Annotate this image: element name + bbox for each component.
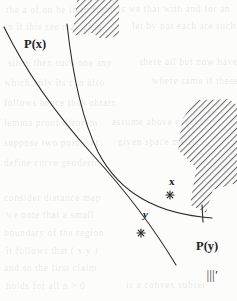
point-y-marker	[137, 229, 145, 237]
label-p-of-x: P(x)	[24, 38, 46, 51]
label-point-y: y	[143, 209, 148, 220]
label-gamma-prime: |||'	[206, 269, 216, 281]
upper-triangle-region	[72, 0, 119, 39]
label-point-x: x	[169, 176, 175, 187]
curve-p-of-x	[4, 27, 176, 265]
point-x-marker	[166, 191, 174, 199]
geometric-figure: the a of on be in to from is we that wit…	[0, 0, 237, 301]
label-p-of-y: P(y)	[196, 240, 218, 253]
right-polygon-region	[178, 99, 237, 213]
